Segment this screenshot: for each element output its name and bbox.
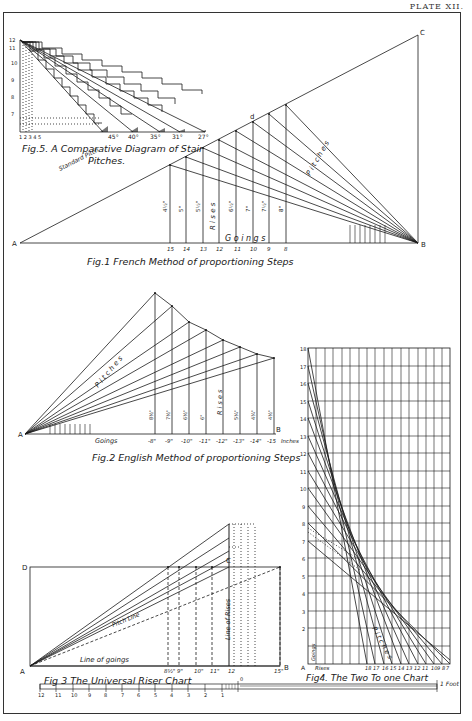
fig1-goings-label: G o i n g s <box>225 234 265 243</box>
fig1-point-d: d <box>250 113 254 121</box>
fig2-rise-label: 4¾" <box>250 410 256 420</box>
fig5-y-tick: 12 <box>9 37 15 43</box>
fig4-x-tick: 14 <box>398 665 404 671</box>
fig1-rise-label: 7½" <box>261 201 267 212</box>
fig2-rise-label: 7½" <box>165 410 171 420</box>
fig3-point-a: A <box>20 668 25 676</box>
fig4-y-tick: 12 <box>300 451 306 457</box>
scale-tick: 5 <box>154 692 157 698</box>
fig2-rise-label: 5¼" <box>233 410 239 420</box>
fig3-going-tick: 15" <box>274 668 284 674</box>
fig2-goings-label: Goings <box>95 437 118 445</box>
fig4-y-tick: 10 <box>300 486 306 492</box>
fig1-rise-label: 8" <box>278 206 284 212</box>
fig2-going-tick: -13" <box>233 438 245 444</box>
fig4-x-tick: 18 <box>365 665 371 671</box>
fig4-y-tick: 6 <box>302 556 305 562</box>
fig1-going-tick: 13 <box>200 246 207 252</box>
fig4-x-tick: 17 <box>373 665 380 671</box>
fig3-going-tick: 9" <box>177 668 183 674</box>
fig4-x-tick: 9 <box>437 665 440 671</box>
fig3-going-tick: 10" <box>194 668 204 674</box>
fig1-point-c: C <box>420 29 425 37</box>
fig2-rise-label: 8½" <box>148 410 154 420</box>
fig1-rises-label: R i s e s <box>209 202 217 230</box>
scale-tick: 12 <box>38 692 44 698</box>
fig2-pitches-label: P i t c h e s <box>93 354 124 389</box>
fig1-point-b: B <box>421 241 426 249</box>
fig2-going-tick: -15 <box>267 438 276 444</box>
fig4-goings-label: Goings <box>310 643 317 661</box>
fig4-rises-label: Rises <box>315 665 330 671</box>
scale-unit: 1 Foot <box>440 680 460 687</box>
fig4-y-tick: 7 <box>302 539 305 545</box>
fig2-english-method: A B P i t c h e s R i s e s 8½" 7½" 6½" … <box>18 292 300 463</box>
svg-text:8: 8 <box>11 94 14 100</box>
fig2-going-tick: -8" <box>148 438 156 444</box>
fig2-rise-label: 6½" <box>182 410 188 420</box>
fig4-caption: Fig4. The Two To one Chart <box>306 673 428 683</box>
fig3-going-tick: 8½" <box>164 668 175 674</box>
fig4-x-tick: 12 <box>414 665 420 671</box>
fig3-point-c: C <box>226 557 231 565</box>
svg-text:9: 9 <box>11 77 14 83</box>
fig1-going-tick: 12 <box>216 246 223 252</box>
fig2-rises-label: R i s e s <box>216 389 224 415</box>
fig4-pitches-label: P i t c h e s <box>370 625 394 661</box>
fig4-x-tick: 7 <box>446 665 450 671</box>
fig1-going-tick: 9 <box>267 246 271 252</box>
scale-tick: 8 <box>104 692 107 698</box>
fig3-going-tick: 12 <box>228 668 235 674</box>
fig4-y-tick: 8 <box>302 521 305 527</box>
fig1-rise-label: 6½" <box>228 201 234 212</box>
fig3-point-b: B <box>284 664 289 672</box>
fig1-going-tick: 15 <box>167 246 174 252</box>
fig1-going-tick: 10 <box>250 246 257 252</box>
scale-tick: 1 <box>221 692 224 698</box>
fig3-point-d: D <box>22 564 27 572</box>
scale-tick: 2 <box>204 692 207 698</box>
fig4-x-tick: 13 <box>406 665 412 671</box>
scale-tick: 11 <box>55 692 61 698</box>
fig1-point-a: A <box>12 240 17 248</box>
fig4-y-tick: 11 <box>300 469 306 475</box>
scale-tick: 0 <box>240 676 243 682</box>
fig2-rise-label: 6" <box>199 415 205 420</box>
fig2-going-tick: -14" <box>250 438 262 444</box>
fig4-y-tick: 5 <box>302 574 305 580</box>
fig2-going-tick: -9" <box>165 438 173 444</box>
fig4-y-tick: 9 <box>302 504 305 510</box>
fig5-angle-label: 27° <box>198 133 209 140</box>
scale-tick: 4 <box>170 692 173 698</box>
fig5-x-ticks: 1 2 3 4 5 <box>19 134 41 140</box>
fig3-universal-riser-chart: D C A B Pitch Line Line of goings Line o… <box>20 524 289 686</box>
fig1-rise-label: 4½" <box>162 201 168 212</box>
fig4-y-tick: 2 <box>302 626 305 632</box>
drawing-canvas: 12 11 10 9 8 7 1 2 3 4 5 45° 40° 35° 31°… <box>0 0 472 721</box>
fig2-point-b: B <box>276 426 281 434</box>
fig5-angle-label: 40° <box>128 133 139 140</box>
fig3-line-of-goings: Line of goings <box>80 656 129 664</box>
fig1-pitches-label: P i t c h e s <box>305 139 331 177</box>
fig1-rise-label: 7" <box>245 206 251 212</box>
fig5-angle-label: 31° <box>172 133 183 140</box>
fig5-angle-label: 35° <box>150 133 161 140</box>
fig1-rise-label: 5½" <box>195 201 201 212</box>
fig2-point-a: A <box>18 431 23 439</box>
scale-tick: 6 <box>137 692 140 698</box>
scale-tick: 9 <box>88 692 91 698</box>
fig4-y-tick: 17 <box>300 364 306 370</box>
fig4-point-a: A <box>301 664 306 671</box>
fig4-x-tick: 16 <box>382 665 388 671</box>
fig2-inches-label: Inches <box>281 438 299 444</box>
fig1-going-tick: 14 <box>183 246 190 252</box>
fig4-y-tick: 18 <box>300 346 306 352</box>
fig3-going-tick: 11" <box>210 668 220 674</box>
fig1-rise-label: 5" <box>178 206 184 212</box>
fig2-going-tick: -11" <box>199 438 211 444</box>
fig4-y-tick: 13 <box>300 434 306 440</box>
scale-tick: 7 <box>121 692 124 698</box>
fig2-going-tick: -10" <box>181 438 193 444</box>
fig2-going-tick: -12" <box>216 438 228 444</box>
fig5-caption-line2: Pitches. <box>88 155 125 166</box>
